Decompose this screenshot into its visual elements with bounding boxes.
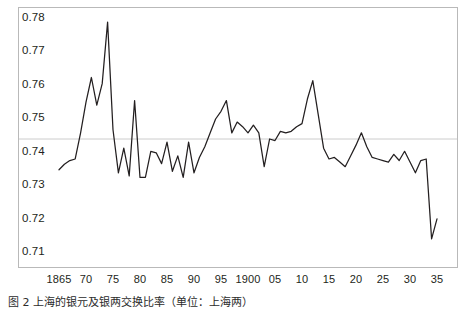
x-tick-label: 80: [134, 274, 146, 285]
x-tick-label: 75: [107, 274, 119, 285]
x-tick-label: 90: [188, 274, 200, 285]
x-tick-label: 85: [161, 274, 173, 285]
x-tick-label: 1900: [236, 274, 261, 285]
x-tick-label: 20: [350, 274, 362, 285]
figure-caption: 图 2 上海的银元及银两交换比率（单位：上海两）: [8, 296, 253, 310]
chart-svg: [0, 0, 476, 311]
data-series-line: [59, 22, 437, 239]
x-tick-label: 95: [215, 274, 227, 285]
x-tick-label: 10: [296, 274, 308, 285]
x-tick-label: 30: [404, 274, 416, 285]
x-tick-label: 15: [323, 274, 335, 285]
figure-container: 0.78 0.77 0.76 0.75 0.74 0.73 0.72 0.71 …: [0, 0, 476, 311]
x-tick-label: 1865: [47, 274, 72, 285]
x-tick-label: 25: [377, 274, 389, 285]
x-tick-label: 05: [269, 274, 281, 285]
x-tick-label: 35: [431, 274, 443, 285]
x-tick-label: 70: [80, 274, 92, 285]
